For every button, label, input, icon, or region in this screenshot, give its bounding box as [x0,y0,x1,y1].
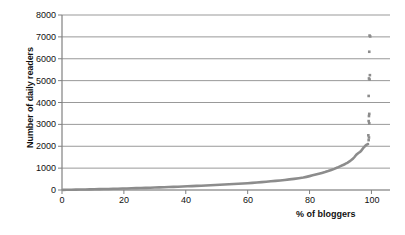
series-line-main [63,144,368,190]
outlier-marker [367,139,370,142]
gridlines [62,15,390,190]
chart-container: Number of daily readers % of bloggers 80… [0,0,405,235]
outlier-marker [368,50,371,53]
data-series-main [63,144,368,190]
data-series-outliers [367,34,371,141]
outlier-marker [369,74,372,77]
outlier-marker [368,34,371,37]
outlier-marker [367,95,370,98]
outlier-marker [367,120,370,123]
outlier-marker [368,77,371,80]
plot-area [0,0,405,235]
outlier-marker [367,134,370,137]
outlier-marker [368,113,371,116]
